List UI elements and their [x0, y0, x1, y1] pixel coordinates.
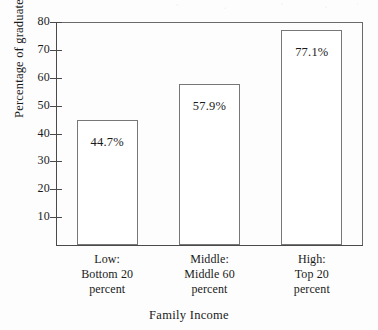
y-tick-label: 10: [38, 208, 50, 224]
bar: 44.7%: [77, 120, 138, 245]
y-axis-title: Percentage of graduates: [12, 0, 27, 118]
y-tick-mark: [50, 78, 62, 79]
x-category-label: High:Top 20percent: [261, 252, 363, 297]
y-tick-mark: [50, 50, 62, 51]
y-axis-title-container: Percentage of graduates: [14, 22, 30, 246]
y-tick-mark: [50, 189, 62, 190]
y-tick-label: 50: [38, 97, 50, 113]
y-tick-label: 80: [38, 13, 50, 29]
chart-figure: Percentage of graduates 1020304050607080…: [0, 0, 378, 330]
y-tick-label: 40: [38, 125, 50, 141]
y-tick-label: 20: [38, 180, 50, 196]
plot-top-border: [56, 22, 363, 23]
bar: 77.1%: [281, 30, 342, 245]
x-category-label-line: percent: [158, 282, 260, 297]
bar-value-label: 57.9%: [180, 99, 239, 114]
y-tick-mark: [50, 134, 62, 135]
x-category-label-line: High:: [261, 252, 363, 267]
x-axis-line: [56, 245, 363, 246]
bar-value-label: 77.1%: [282, 45, 341, 60]
y-tick-label: 30: [38, 152, 50, 168]
bar: 57.9%: [179, 84, 240, 245]
bar-value-label: 44.7%: [78, 135, 137, 150]
x-category-label-line: Top 20: [261, 267, 363, 282]
y-tick-mark: [50, 22, 62, 23]
x-axis-title: Family Income: [0, 308, 378, 323]
x-category-label-line: Low:: [56, 252, 158, 267]
plot-right-border: [362, 22, 363, 246]
y-tick-mark: [50, 106, 62, 107]
x-category-label: Low:Bottom 20percent: [56, 252, 158, 297]
y-tick-label: 70: [38, 41, 50, 57]
y-tick-mark: [50, 217, 62, 218]
x-category-label-line: Middle:: [158, 252, 260, 267]
x-category-label-line: percent: [56, 282, 158, 297]
y-tick-mark: [50, 161, 62, 162]
x-category-label: Middle:Middle 60percent: [158, 252, 260, 297]
x-category-label-line: Middle 60: [158, 267, 260, 282]
scan-artifact: [150, 0, 378, 12]
x-category-label-line: Bottom 20: [56, 267, 158, 282]
y-tick-label: 60: [38, 69, 50, 85]
plot-area: 1020304050607080 44.7%57.9%77.1%: [56, 22, 363, 246]
x-category-label-line: percent: [261, 282, 363, 297]
